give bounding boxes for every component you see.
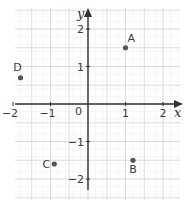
y-tick-label: −2: [68, 173, 84, 186]
x-tick-label: 1: [122, 107, 129, 120]
axes: x y 0: [15, 6, 183, 190]
y-axis-arrow-icon: [84, 8, 92, 17]
y-tick-label: −1: [68, 136, 84, 149]
x-axis-label: x: [174, 105, 182, 120]
coordinate-plane: x y 0 −2−11221−1−2 ABCD: [0, 0, 185, 206]
point-d: [18, 75, 23, 80]
point-label-a: A: [128, 32, 136, 45]
y-tick-label: 1: [77, 61, 84, 74]
x-tick-label: −2: [2, 107, 18, 120]
point-label-d: D: [13, 61, 21, 74]
point-c: [52, 161, 57, 166]
point-label-b: B: [129, 163, 137, 176]
point-b: [130, 158, 135, 163]
x-tick-label: −1: [39, 107, 55, 120]
point-label-c: C: [43, 158, 51, 171]
origin-label: 0: [75, 105, 82, 118]
y-axis-label: y: [76, 6, 85, 21]
x-tick-label: 2: [160, 107, 167, 120]
y-tick-label: 2: [77, 23, 84, 36]
point-a: [123, 45, 128, 50]
